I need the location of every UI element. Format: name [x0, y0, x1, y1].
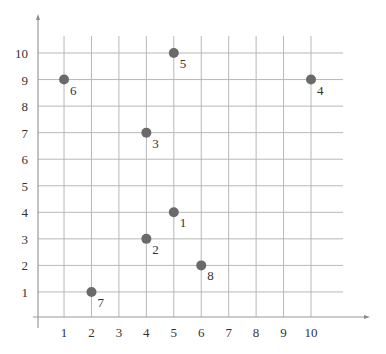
- x-tick-label: 9: [280, 325, 287, 340]
- point-label: 1: [180, 215, 187, 230]
- y-tick-labels: 12345678910: [15, 46, 29, 300]
- point-marker-icon: [196, 260, 206, 270]
- x-tick-label: 5: [171, 325, 178, 340]
- scatter-plot: 12345678910 12345678910 12345678: [0, 0, 386, 354]
- y-tick-label: 4: [22, 205, 29, 220]
- point-label: 2: [152, 242, 159, 257]
- grid-lines: [38, 36, 343, 317]
- data-point: 6: [59, 75, 77, 98]
- x-tick-label: 7: [225, 325, 232, 340]
- x-tick-label: 4: [143, 325, 150, 340]
- point-marker-icon: [86, 287, 96, 297]
- x-axis-arrow-icon: [364, 315, 370, 319]
- y-tick-label: 9: [22, 73, 29, 88]
- y-tick-label: 8: [22, 99, 29, 114]
- y-tick-label: 6: [22, 152, 29, 167]
- data-point: 1: [169, 207, 187, 230]
- data-point: 3: [141, 128, 159, 151]
- point-label: 4: [317, 83, 324, 98]
- y-tick-label: 7: [22, 126, 29, 141]
- x-tick-label: 6: [198, 325, 205, 340]
- point-label: 8: [207, 268, 214, 283]
- y-tick-label: 3: [22, 232, 29, 247]
- point-marker-icon: [169, 48, 179, 58]
- point-marker-icon: [141, 234, 151, 244]
- point-marker-icon: [59, 75, 69, 85]
- y-tick-label: 1: [22, 285, 29, 300]
- x-tick-label: 1: [61, 325, 68, 340]
- x-tick-labels: 12345678910: [61, 325, 318, 340]
- data-point: 8: [196, 260, 214, 283]
- data-point: 5: [169, 48, 187, 71]
- y-tick-label: 2: [22, 258, 29, 273]
- data-point: 2: [141, 234, 159, 257]
- point-label: 5: [180, 56, 187, 71]
- x-tick-label: 8: [253, 325, 260, 340]
- point-label: 7: [97, 295, 104, 310]
- point-marker-icon: [141, 128, 151, 138]
- data-points: 12345678: [59, 48, 324, 310]
- point-marker-icon: [169, 207, 179, 217]
- point-label: 3: [152, 136, 159, 151]
- x-tick-label: 10: [305, 325, 318, 340]
- y-tick-label: 10: [15, 46, 28, 61]
- point-label: 6: [70, 83, 77, 98]
- data-point: 7: [86, 287, 104, 310]
- point-marker-icon: [306, 75, 316, 85]
- x-tick-label: 3: [116, 325, 123, 340]
- y-axis-arrow-icon: [36, 14, 40, 20]
- data-point: 4: [306, 75, 324, 98]
- x-tick-label: 2: [88, 325, 95, 340]
- y-tick-label: 5: [22, 179, 29, 194]
